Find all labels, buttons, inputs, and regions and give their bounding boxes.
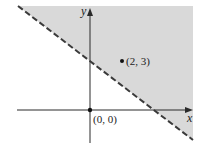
point-2-3 xyxy=(120,59,124,63)
point-2-3-label: (2, 3) xyxy=(126,55,150,68)
point-origin-label: (0, 0) xyxy=(93,113,117,126)
x-axis-label: x xyxy=(186,111,193,125)
y-axis-label: y xyxy=(80,4,87,18)
inequality-graph: x y (2, 3) (0, 0) xyxy=(0,0,205,153)
point-origin xyxy=(88,108,92,112)
